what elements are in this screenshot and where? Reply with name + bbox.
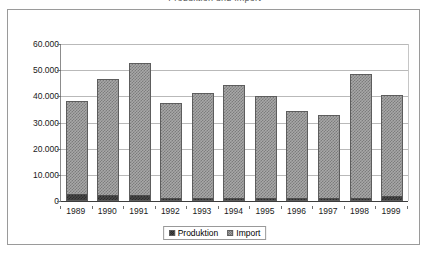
stacked-bar[interactable] (255, 96, 277, 201)
bar-segment-import[interactable] (193, 94, 213, 198)
bar-group (61, 44, 408, 201)
legend-swatch-produktion-icon (169, 230, 175, 236)
legend-swatch-import-icon (227, 230, 233, 236)
bar-segment-import[interactable] (287, 112, 307, 198)
stacked-bar[interactable] (192, 93, 214, 201)
bar-slot (250, 44, 281, 201)
bar-slot (282, 44, 313, 201)
stacked-bar[interactable] (223, 85, 245, 201)
y-axis-tick-label: 30.000 (13, 119, 59, 128)
bar-segment-import[interactable] (319, 116, 339, 198)
bar-segment-produktion[interactable] (256, 198, 276, 200)
x-axis-tick-label: 1997 (313, 206, 344, 220)
bar-segment-produktion[interactable] (98, 195, 118, 200)
y-axis-tick-label: 20.000 (13, 145, 59, 154)
bar-segment-import[interactable] (256, 97, 276, 198)
x-axis-tick-mark (218, 206, 219, 209)
bar-segment-produktion[interactable] (130, 195, 150, 200)
x-axis-tick-label: 1999 (376, 206, 407, 220)
bar-slot (345, 44, 376, 201)
x-axis-tick-label: 1996 (281, 206, 312, 220)
x-axis-tick-label: 1993 (186, 206, 217, 220)
y-axis-tick-mark (57, 201, 61, 202)
bar-segment-produktion[interactable] (67, 194, 87, 200)
bar-slot (187, 44, 218, 201)
x-axis-tick-label: 1990 (92, 206, 123, 220)
bar-slot (377, 44, 408, 201)
chart-plot-wrapper: 60.00050.00040.00030.00020.00010.0000 19… (8, 10, 421, 246)
x-axis-tick-label: 1998 (344, 206, 375, 220)
x-axis-tick-mark (249, 206, 250, 209)
x-axis-tick-label: 1989 (60, 206, 91, 220)
bar-segment-import[interactable] (351, 75, 371, 198)
bar-segment-import[interactable] (67, 102, 87, 195)
bar-segment-produktion[interactable] (351, 198, 371, 200)
clipped-chart-title: Produktion und Import (0, 0, 429, 5)
bar-slot (93, 44, 124, 201)
bar-segment-import[interactable] (98, 80, 118, 195)
chart-legend: Produktion Import (163, 226, 267, 240)
x-axis-tick-label: 1995 (249, 206, 280, 220)
stacked-bar[interactable] (318, 115, 340, 201)
y-axis-tick-label: 10.000 (13, 171, 59, 180)
bar-segment-produktion[interactable] (382, 196, 402, 200)
bar-segment-import[interactable] (161, 104, 181, 198)
bar-slot (61, 44, 92, 201)
bar-slot (219, 44, 250, 201)
stacked-bar[interactable] (350, 74, 372, 201)
y-axis-tick-label: 40.000 (13, 92, 59, 101)
x-axis-tick-label: 1991 (123, 206, 154, 220)
bar-slot (124, 44, 155, 201)
plot-area (60, 44, 408, 202)
stacked-bar[interactable] (129, 63, 151, 201)
bar-segment-produktion[interactable] (193, 198, 213, 200)
y-axis-tick-label: 50.000 (13, 66, 59, 75)
y-axis-tick-label: 0 (13, 197, 59, 206)
x-axis-tick-mark (312, 206, 313, 209)
x-axis-tick-mark (155, 206, 156, 209)
x-axis-tick-mark (281, 206, 282, 209)
x-axis-tick-label: 1994 (218, 206, 249, 220)
bar-segment-produktion[interactable] (319, 198, 339, 200)
x-axis-tick-mark (60, 206, 61, 209)
stacked-bar[interactable] (66, 101, 88, 201)
stacked-bar[interactable] (97, 79, 119, 201)
y-axis-tick-label: 60.000 (13, 40, 59, 49)
legend-label-produktion: Produktion (178, 228, 219, 238)
x-axis-tick-label: 1992 (155, 206, 186, 220)
bar-slot (156, 44, 187, 201)
bar-segment-produktion[interactable] (224, 198, 244, 200)
y-axis-labels: 60.00050.00040.00030.00020.00010.0000 (11, 10, 59, 246)
chart-frame: 60.00050.00040.00030.00020.00010.0000 19… (7, 9, 420, 245)
stacked-bar[interactable] (160, 103, 182, 201)
legend-label-import: Import (236, 228, 260, 238)
x-axis-labels: 1989199019911992199319941995199619971998… (60, 206, 407, 220)
stacked-bar[interactable] (286, 111, 308, 201)
bar-segment-import[interactable] (382, 96, 402, 196)
legend-item-produktion: Produktion (169, 228, 219, 238)
x-axis-tick-mark (123, 206, 124, 209)
x-axis-tick-mark (92, 206, 93, 209)
bar-segment-import[interactable] (130, 64, 150, 195)
bar-slot (314, 44, 345, 201)
plot-right-edge (408, 44, 409, 201)
x-axis-tick-mark (375, 206, 376, 209)
x-axis-tick-mark (344, 206, 345, 209)
legend-item-import: Import (227, 228, 260, 238)
bar-segment-produktion[interactable] (161, 198, 181, 200)
stacked-bar[interactable] (381, 95, 403, 201)
bar-segment-import[interactable] (224, 86, 244, 198)
bar-segment-produktion[interactable] (287, 198, 307, 200)
x-axis-tick-mark (407, 206, 408, 209)
x-axis-tick-mark (186, 206, 187, 209)
